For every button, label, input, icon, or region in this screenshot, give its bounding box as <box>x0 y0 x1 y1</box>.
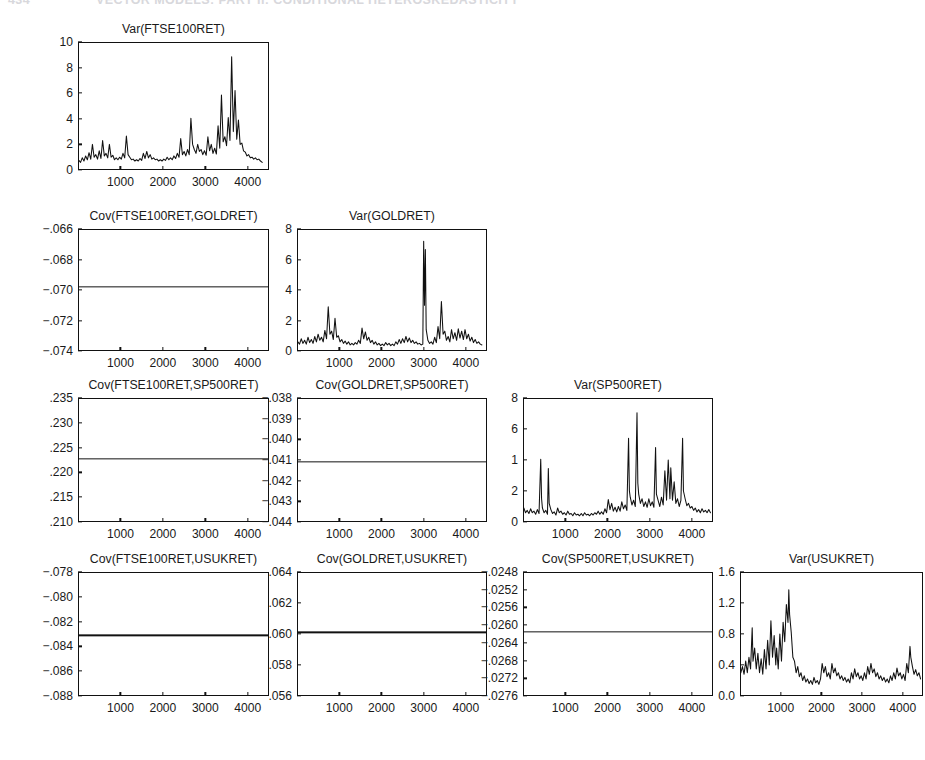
y-axis-tick-label: 0.8 <box>718 627 735 641</box>
x-axis-tick-label: 3000 <box>410 356 437 370</box>
x-axis-tick-label: 3000 <box>192 175 219 189</box>
x-axis-tick-label: 4000 <box>889 701 916 715</box>
panel-var-sp500ret: Var(SP500RET)021681000200030004000 <box>0 378 925 548</box>
x-axis-tick-label: 2000 <box>149 175 176 189</box>
y-axis-tick-label: 1.2 <box>718 596 735 610</box>
running-head: VECTOR MODELS: PART II: CONDITIONAL HETE… <box>96 0 519 5</box>
panel-var-ftse100ret: Var(FTSE100RET)02468101000200030004000 <box>0 22 925 196</box>
panel-title: Var(GOLDRET) <box>297 209 487 223</box>
y-axis-tick-label: 0.0 <box>718 689 735 703</box>
x-axis-tick-label: 2000 <box>808 701 835 715</box>
y-axis-tick-label: 1 <box>511 453 518 467</box>
y-axis-tick-label: 0.4 <box>718 658 735 672</box>
y-axis-tick-label: 6 <box>285 253 292 267</box>
page-folio: 434 <box>8 0 30 5</box>
panel-var-usukret: Var(USUKRET)0.00.40.81.21.61000200030004… <box>0 552 925 722</box>
page-header: 434 VECTOR MODELS: PART II: CONDITIONAL … <box>0 0 925 5</box>
x-axis-tick-label: 1000 <box>107 175 134 189</box>
y-axis-tick-label: 2 <box>285 314 292 328</box>
series-polyline <box>78 42 269 170</box>
y-axis-tick-label: 8 <box>285 222 292 236</box>
y-axis-tick-label: 0 <box>511 515 518 529</box>
panel-title: Var(FTSE100RET) <box>78 22 269 36</box>
x-axis-tick-label: 4000 <box>452 356 479 370</box>
plot-area: 0.00.40.81.21.61000200030004000 <box>740 572 923 696</box>
y-axis-tick-label: 10 <box>60 35 73 49</box>
x-axis-tick-label: 4000 <box>234 175 261 189</box>
y-axis-tick-label: 8 <box>66 61 73 75</box>
x-axis-tick-label: 3000 <box>849 701 876 715</box>
x-axis-tick-label: 2000 <box>594 527 621 541</box>
x-axis-tick-label: 2000 <box>368 356 395 370</box>
y-axis-tick-label: 1.6 <box>718 565 735 579</box>
y-axis-tick-label: 4 <box>285 283 292 297</box>
y-axis-tick-label: 0 <box>66 163 73 177</box>
y-axis-tick-label: 4 <box>66 112 73 126</box>
x-axis-tick-label: 1000 <box>326 356 353 370</box>
x-axis-tick-label: 3000 <box>636 527 663 541</box>
x-axis-tick-label: 1000 <box>552 527 579 541</box>
y-axis-tick-label: 0 <box>285 344 292 358</box>
series-polyline <box>740 572 923 696</box>
panel-var-goldret: Var(GOLDRET)024681000200030004000 <box>0 209 925 377</box>
panel-title: Var(USUKRET) <box>740 552 923 566</box>
series-polyline <box>297 229 487 351</box>
y-axis-tick-label: 6 <box>511 422 518 436</box>
series-polyline <box>523 398 713 522</box>
y-axis-tick-label: 2 <box>66 137 73 151</box>
x-axis-tick-label: 4000 <box>678 527 705 541</box>
x-axis-tick-label: 1000 <box>767 701 794 715</box>
plot-area: 02468101000200030004000 <box>78 42 269 170</box>
plot-area: 024681000200030004000 <box>297 229 487 351</box>
y-axis-tick-label: 6 <box>66 86 73 100</box>
plot-area: 021681000200030004000 <box>523 398 713 522</box>
panel-title: Var(SP500RET) <box>523 378 713 392</box>
y-axis-tick-label: 2 <box>511 484 518 498</box>
y-axis-tick-label: 8 <box>511 391 518 405</box>
